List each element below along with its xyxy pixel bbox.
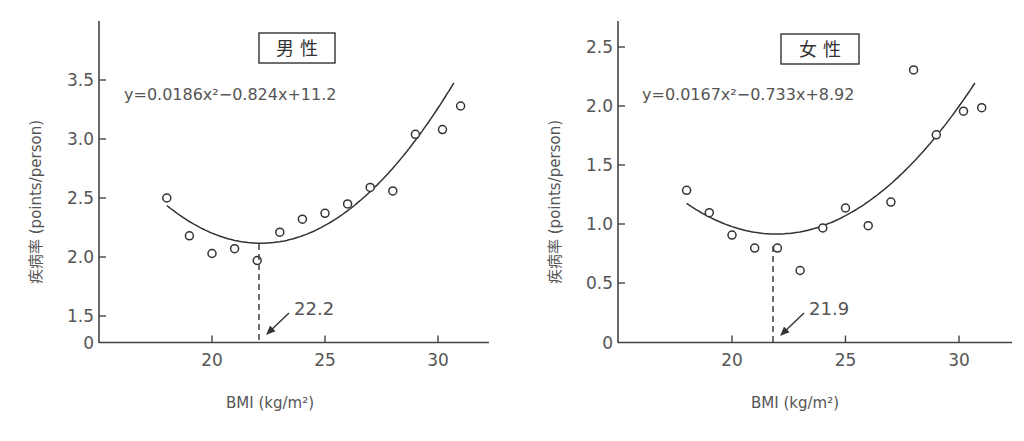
data-point [366, 183, 374, 191]
data-point [253, 257, 261, 265]
data-point [439, 126, 447, 134]
data-point [321, 209, 329, 217]
chart-panel-male: 01.52.02.53.03.5 202530 男 性 y=0.0186x²−0… [27, 21, 489, 412]
data-point [910, 66, 918, 74]
fit-curve [167, 83, 454, 244]
data-point [457, 102, 465, 110]
data-point [298, 215, 306, 223]
y-tick-label: 0 [83, 333, 94, 353]
data-point [389, 187, 397, 195]
optimum-label: 21.9 [809, 298, 849, 319]
data-point [887, 198, 895, 206]
x-tick-label: 30 [948, 350, 970, 370]
data-point [864, 222, 872, 230]
data-point [773, 244, 781, 252]
y-ticks: 01.52.02.53.03.5 [67, 70, 106, 353]
chart-title: 女 性 [799, 39, 841, 60]
y-tick-label: 0 [602, 333, 613, 353]
x-tick-label: 30 [427, 350, 449, 370]
y-tick-label: 2.0 [586, 96, 613, 116]
y-tick-label: 1.5 [67, 306, 94, 326]
y-tick-label: 2.5 [67, 188, 94, 208]
fit-equation: y=0.0186x²−0.824x+11.2 [124, 85, 336, 104]
x-axis-title: BMI (kg/m²) [751, 394, 839, 412]
fit-curve [687, 83, 975, 234]
chart-title: 男 性 [276, 38, 318, 59]
data-point [208, 250, 216, 258]
annotation-arrow [781, 313, 804, 335]
data-point [978, 104, 986, 112]
data-point [932, 131, 940, 139]
data-point [960, 107, 968, 115]
y-axis-title: 疾病率 (points/person) [546, 120, 564, 284]
x-tick-label: 20 [201, 350, 223, 370]
optimum-label: 22.2 [294, 298, 334, 319]
y-tick-label: 1.5 [586, 155, 613, 175]
y-axis-title: 疾病率 (points/person) [27, 120, 45, 284]
x-ticks: 202530 [721, 336, 970, 371]
data-point [819, 224, 827, 232]
bmi-disease-rate-charts: 01.52.02.53.03.5 202530 男 性 y=0.0186x²−0… [0, 0, 1024, 441]
data-point [276, 228, 284, 236]
data-point [411, 130, 419, 138]
data-point [796, 267, 804, 275]
x-tick-label: 25 [835, 350, 857, 370]
data-point [231, 245, 239, 253]
x-ticks: 202530 [201, 336, 449, 371]
data-point [728, 231, 736, 239]
data-point [163, 194, 171, 202]
data-point [344, 200, 352, 208]
y-tick-label: 2.0 [67, 247, 94, 267]
y-tick-label: 2.5 [586, 37, 613, 57]
data-point [705, 209, 713, 217]
y-tick-label: 1.0 [586, 214, 613, 234]
x-tick-label: 20 [721, 350, 743, 370]
y-tick-label: 3.5 [67, 70, 94, 90]
data-point [842, 204, 850, 212]
data-points [163, 102, 465, 265]
data-point [683, 186, 691, 194]
fit-equation: y=0.0167x²−0.733x+8.92 [642, 85, 854, 104]
chart-panel-female: 00.51.01.52.02.5 202530 女 性 y=0.0167x²−0… [546, 21, 1012, 412]
y-tick-label: 0.5 [586, 273, 613, 293]
y-tick-label: 3.0 [67, 129, 94, 149]
data-point [751, 244, 759, 252]
y-ticks: 00.51.01.52.02.5 [586, 37, 625, 353]
annotation-arrow [267, 313, 289, 334]
data-point [185, 232, 193, 240]
x-axis-title: BMI (kg/m²) [226, 394, 314, 412]
x-tick-label: 25 [314, 350, 336, 370]
